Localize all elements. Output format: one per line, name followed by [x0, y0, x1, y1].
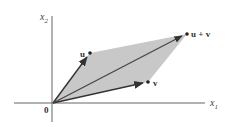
x-axis-label: x1 — [209, 97, 218, 111]
label-u: u — [80, 49, 85, 59]
label-u-plus-v: u + v — [191, 29, 211, 39]
point-u-plus-v — [185, 32, 189, 36]
point-v — [146, 80, 150, 84]
label-v: v — [153, 78, 158, 88]
point-u — [88, 51, 92, 55]
y-axis-label: x2 — [39, 11, 48, 25]
vector-addition-diagram: x2 x1 0 u v u + v — [0, 0, 231, 127]
label-origin: 0 — [44, 105, 49, 115]
vector-u-plus-v — [53, 36, 182, 103]
